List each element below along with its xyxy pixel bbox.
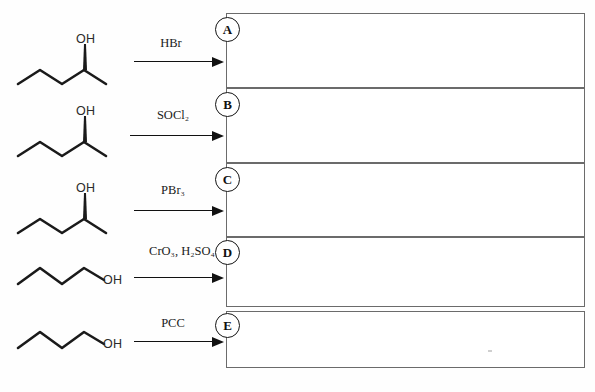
- reagent-text-d: CrO₃, H₂SO₄: [149, 244, 215, 258]
- reagent-label-a: HBr: [140, 36, 202, 51]
- answer-box-label-c: C: [215, 167, 240, 192]
- answer-box-label-e: E: [215, 313, 240, 338]
- answer-box-b[interactable]: [226, 88, 585, 163]
- answer-box-letter-a: A: [223, 23, 232, 36]
- oh-label-c: OH: [76, 181, 96, 195]
- reaction-arrow-a: [134, 56, 226, 68]
- substrate-structure-2-pentanol-a: [14, 36, 136, 98]
- answer-box-c[interactable]: [226, 163, 585, 237]
- answer-box-column: A B C D E: [222, 0, 595, 392]
- answer-box-e[interactable]: [226, 311, 585, 368]
- worksheet-page: OH HBr OH SOCl₂: [0, 0, 595, 392]
- answer-box-letter-b: B: [223, 98, 232, 111]
- reagent-text-e: PCC: [161, 316, 185, 330]
- substrate-structure-1-butanol-d: [14, 256, 136, 318]
- answer-box-a[interactable]: [226, 13, 585, 88]
- oh-label-a: OH: [76, 32, 96, 46]
- answer-box-letter-e: E: [223, 319, 232, 332]
- substrate-structure-2-pentanol-c: [14, 185, 136, 247]
- reagent-label-e: PCC: [142, 316, 204, 331]
- answer-box-letter-d: D: [223, 246, 232, 259]
- substrate-structure-1-butanol-e: [14, 320, 136, 382]
- reaction-arrow-c: [134, 205, 226, 217]
- reaction-arrow-d: [134, 272, 226, 284]
- answer-box-label-d: D: [215, 240, 240, 265]
- substrate-structure-2-pentanol-b: [14, 108, 136, 170]
- scan-speck: [488, 350, 492, 352]
- oh-label-d: OH: [103, 273, 123, 287]
- answer-box-letter-c: C: [223, 173, 232, 186]
- answer-box-d[interactable]: [226, 237, 585, 307]
- answer-box-label-b: B: [215, 92, 240, 117]
- oh-label-b: OH: [76, 104, 96, 118]
- reagent-text-a: HBr: [160, 36, 182, 50]
- reagent-label-c: PBr₃: [142, 183, 204, 198]
- reaction-arrow-e: [134, 336, 226, 348]
- reagent-label-b: SOCl₂: [138, 108, 208, 123]
- oh-label-e: OH: [103, 337, 123, 351]
- reagent-text-b: SOCl₂: [157, 108, 189, 122]
- reagent-text-c: PBr₃: [161, 183, 185, 197]
- reaction-arrow-b: [130, 130, 226, 142]
- answer-box-label-a: A: [215, 17, 240, 42]
